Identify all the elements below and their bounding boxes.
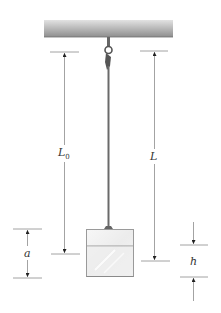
label-h: h [190,255,197,268]
hook-icon [105,37,112,70]
diagram-canvas [0,0,221,313]
ceiling-support [44,20,173,37]
label-a: a [24,247,31,260]
box-container [87,226,134,277]
label-L: L [150,150,157,163]
label-L0: L0 [58,146,70,162]
label-L0-subscript: 0 [65,153,69,161]
